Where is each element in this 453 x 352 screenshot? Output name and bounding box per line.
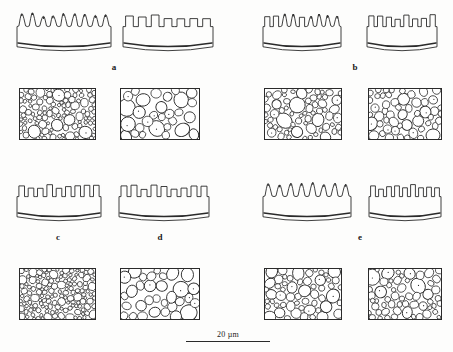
valve-profile-d [118,180,210,226]
group-label-d: d [150,232,170,242]
group-label-e: e [350,232,370,242]
valve-profile-e [368,180,442,226]
pore-panel-b [368,88,442,140]
pore-panel-c [19,268,96,320]
pore-panel-b [264,88,342,140]
scale-bar-label: 20 µm [186,330,270,340]
valve-profile-c [16,180,102,226]
group-label-a: a [104,62,124,72]
valve-profile-b [262,10,342,56]
scale-bar: 20 µm [186,330,270,342]
pore-panel-d [120,268,200,320]
scale-bar-line [186,341,270,342]
group-label-b: b [345,62,365,72]
valve-profile-e [262,180,352,226]
valve-profile-a [16,10,112,56]
pore-panel-a [120,88,200,140]
pore-panel-e [368,268,442,320]
figure-plate: abcde 20 µm [0,0,453,352]
valve-profile-b [366,10,438,56]
valve-profile-a [122,10,214,56]
group-label-c: c [48,232,68,242]
pore-panel-e [264,268,342,320]
pore-panel-a [19,88,96,140]
